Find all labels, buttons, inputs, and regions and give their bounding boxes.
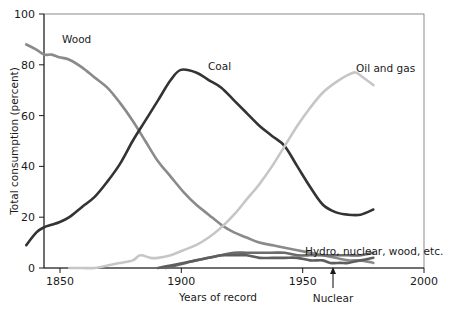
x-tick-label-1900: 1900 <box>167 275 195 288</box>
chart-svg: 0 20 40 60 80 100 1850 1900 1950 2000 To… <box>0 0 451 316</box>
y-tick-label-20: 20 <box>21 211 35 224</box>
nuclear-annotation-label: Nuclear <box>313 292 354 304</box>
series-line-wood <box>26 44 373 262</box>
series-label-oil-and-gas: Oil and gas <box>356 62 415 74</box>
series-label-hydro-nuclear-wood: Hydro, nuclear, wood, etc. <box>305 245 443 257</box>
y-tick-label-0: 0 <box>28 262 35 275</box>
energy-consumption-chart: 0 20 40 60 80 100 1850 1900 1950 2000 To… <box>0 0 451 316</box>
x-tick-label-2000: 2000 <box>410 275 438 288</box>
x-tick-label-1950: 1950 <box>289 275 317 288</box>
x-axis-title: Years of record <box>178 291 257 303</box>
y-axis-title: Total consumption (percent) <box>8 67 20 216</box>
x-axis-ticks <box>60 268 424 273</box>
y-tick-label-60: 60 <box>21 110 35 123</box>
axis-spines <box>44 14 424 268</box>
y-tick-label-100: 100 <box>14 8 35 21</box>
series-label-coal: Coal <box>208 60 231 72</box>
x-tick-label-1850: 1850 <box>46 275 74 288</box>
nuclear-annotation: Nuclear <box>313 267 354 304</box>
series-layer <box>26 44 373 268</box>
y-tick-label-80: 80 <box>21 59 35 72</box>
y-tick-label-40: 40 <box>21 160 35 173</box>
series-label-wood: Wood <box>62 33 91 45</box>
plot-frame <box>44 14 424 268</box>
series-line-nuclear <box>158 255 373 268</box>
